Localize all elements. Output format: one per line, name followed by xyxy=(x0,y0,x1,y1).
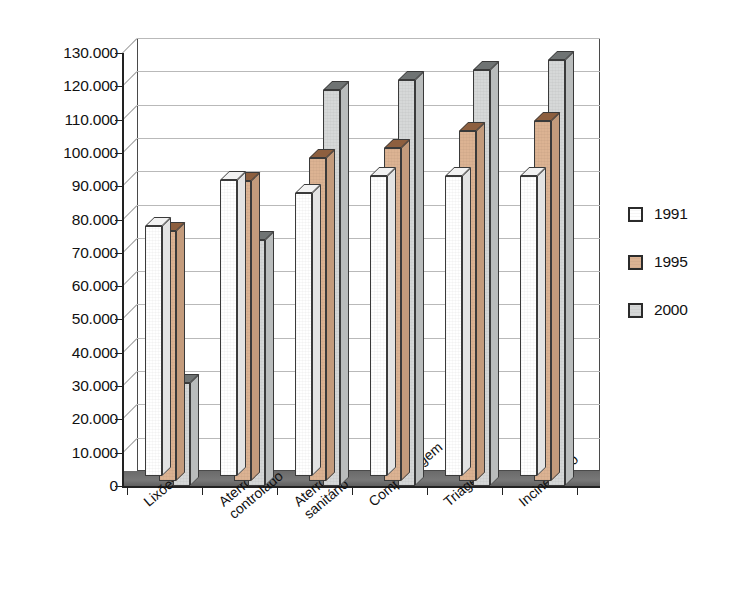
bar-front-face xyxy=(145,226,162,476)
bar-side-face xyxy=(462,168,471,476)
gridline xyxy=(137,138,600,139)
y-axis-tick-mark xyxy=(115,486,122,487)
y-axis-tick-mark xyxy=(115,220,122,221)
bar-side-face xyxy=(326,149,335,481)
bar-side-face xyxy=(340,81,349,486)
y-axis-tick-label: 130.000 xyxy=(63,45,118,61)
bar-side-face xyxy=(401,139,410,481)
depth-connector-line xyxy=(122,271,138,287)
bar-side-face xyxy=(490,61,499,486)
y-axis-labels: 010.00020.00030.00040.00050.00060.00070.… xyxy=(18,0,118,611)
bar-side-face xyxy=(162,217,171,475)
bar-side-face xyxy=(176,222,185,480)
y-axis-tick-mark xyxy=(115,286,122,287)
legend-item-2000: 2000 xyxy=(628,301,688,319)
depth-connector-line xyxy=(122,438,138,454)
bar-side-face xyxy=(265,231,274,486)
bar-front-face xyxy=(445,176,462,476)
chart-legend: 199119952000 xyxy=(628,205,688,349)
y-axis-tick-label: 120.000 xyxy=(63,78,118,94)
y-axis-tick-label: 30.000 xyxy=(72,378,118,394)
y-axis-tick-label: 80.000 xyxy=(72,212,118,228)
y-axis-tick-mark xyxy=(115,353,122,354)
y-axis-tick-mark xyxy=(115,153,122,154)
bar-chart: 010.00020.00030.00040.00050.00060.00070.… xyxy=(0,0,731,611)
x-axis-tick-mark xyxy=(127,486,128,495)
legend-swatch-icon xyxy=(628,303,643,318)
bar-side-face xyxy=(237,171,246,476)
legend-item-1995: 1995 xyxy=(628,253,688,271)
y-axis-tick-label: 90.000 xyxy=(72,178,118,194)
depth-connector-line xyxy=(122,371,138,387)
legend-swatch-icon xyxy=(628,207,643,222)
bar-side-face xyxy=(565,51,574,486)
x-axis-tick-mark xyxy=(352,486,353,495)
y-axis-tick-mark xyxy=(115,253,122,254)
y-axis-tick-mark xyxy=(115,53,122,54)
y-axis-tick-label: 40.000 xyxy=(72,345,118,361)
y-axis-tick-label: 50.000 xyxy=(72,311,118,327)
bar-1991-compostagem xyxy=(370,176,387,476)
bar-side-face xyxy=(551,113,560,481)
y-axis-tick-mark xyxy=(115,319,122,320)
bar-front-face xyxy=(370,176,387,476)
depth-connector-line xyxy=(122,205,138,221)
x-axis-tick-mark xyxy=(577,486,578,495)
y-axis-tick-label: 100.000 xyxy=(63,145,118,161)
bar-front-face xyxy=(295,193,312,476)
bar-side-face xyxy=(476,123,485,481)
bar-side-face xyxy=(190,374,199,486)
depth-connector-line xyxy=(122,38,138,54)
bar-side-face xyxy=(251,173,260,481)
bar-1991-aterro-sanit-rio xyxy=(295,193,312,476)
y-axis-tick-mark xyxy=(115,120,122,121)
y-axis-tick-label: 110.000 xyxy=(65,112,118,128)
x-axis-tick-mark xyxy=(202,486,203,495)
legend-item-1991: 1991 xyxy=(628,205,688,223)
legend-label: 2000 xyxy=(654,301,688,319)
bar-side-face xyxy=(387,168,396,476)
y-axis-tick-mark xyxy=(115,86,122,87)
bar-1991-aterro-controlado xyxy=(220,180,237,476)
bar-front-face xyxy=(220,180,237,476)
y-axis-tick-label: 20.000 xyxy=(72,411,118,427)
depth-connector-line xyxy=(122,305,138,321)
bar-side-face xyxy=(537,168,546,476)
y-axis-tick-label: 10.000 xyxy=(72,445,118,461)
bar-1991-lix-es xyxy=(145,226,162,476)
depth-connector-line xyxy=(122,138,138,154)
depth-connector-line xyxy=(122,105,138,121)
legend-label: 1995 xyxy=(654,253,688,271)
y-axis-tick-mark xyxy=(115,453,122,454)
bar-side-face xyxy=(415,71,424,486)
depth-connector-line xyxy=(122,238,138,254)
x-axis-tick-mark xyxy=(502,486,503,495)
depth-connector-line xyxy=(122,405,138,421)
y-axis-line xyxy=(122,53,124,486)
legend-swatch-icon xyxy=(628,255,643,270)
y-axis-tick-mark xyxy=(115,186,122,187)
depth-connector-line xyxy=(122,171,138,187)
bar-1991-triagem xyxy=(445,176,462,476)
bar-front-face xyxy=(520,176,537,476)
x-axis-tick-mark xyxy=(427,486,428,495)
depth-connector-line xyxy=(122,338,138,354)
gridline xyxy=(137,71,600,72)
plot-area xyxy=(122,38,600,486)
bar-1991-incinera-o xyxy=(520,176,537,476)
y-axis-tick-label: 70.000 xyxy=(72,245,118,261)
y-axis-tick-label: 60.000 xyxy=(72,278,118,294)
y-axis-tick-mark xyxy=(115,386,122,387)
legend-label: 1991 xyxy=(654,205,688,223)
gridline xyxy=(137,38,600,39)
y-axis-tick-mark xyxy=(115,419,122,420)
bar-side-face xyxy=(312,184,321,476)
gridline xyxy=(137,105,600,106)
depth-connector-line xyxy=(122,71,138,87)
